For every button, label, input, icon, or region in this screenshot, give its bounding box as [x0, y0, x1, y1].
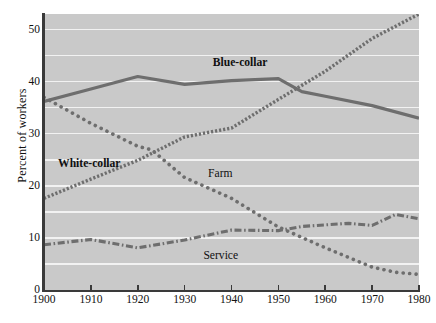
x-tick-label: 1900	[18, 292, 70, 306]
y-tick-label: 40	[2, 76, 40, 88]
x-tick-mark	[90, 285, 92, 292]
y-axis-line	[42, 13, 45, 292]
x-tick-mark	[231, 285, 233, 292]
x-tick-label: 1950	[252, 292, 304, 306]
plot-area: Blue-collarWhite-collarFarmService	[44, 14, 419, 290]
y-tick-label: 30	[2, 128, 40, 140]
y-axis-tick-labels: 01020304050	[0, 0, 40, 323]
x-tick-mark	[184, 285, 186, 292]
x-tick-label: 1930	[159, 292, 211, 306]
x-tick-label: 1920	[112, 292, 164, 306]
x-tick-label: 1910	[65, 292, 117, 306]
series-line-blue-collar	[44, 76, 419, 118]
x-tick-label: 1940	[206, 292, 258, 306]
x-tick-label: 1970	[346, 292, 398, 306]
y-tick-label: 10	[2, 232, 40, 244]
y-tick-label: 50	[2, 24, 40, 36]
y-tick-label: 20	[2, 180, 40, 192]
x-axis-tick-labels: 190019101920193019401950196019701980	[0, 292, 436, 312]
x-tick-mark	[137, 285, 139, 292]
series-line-service	[44, 214, 419, 247]
x-tick-label: 1960	[299, 292, 351, 306]
series-label-blue-collar: Blue-collar	[213, 56, 268, 69]
x-tick-mark	[418, 285, 420, 292]
x-tick-mark	[43, 285, 45, 292]
x-tick-label: 1980	[393, 292, 436, 306]
chart-figure: Percent of workers 01020304050 Blue-coll…	[0, 0, 436, 323]
series-label-service: Service	[203, 249, 238, 262]
x-tick-mark	[371, 285, 373, 292]
series-label-white-collar: White-collar	[58, 157, 120, 170]
x-tick-mark	[324, 285, 326, 292]
x-tick-mark	[278, 285, 280, 292]
series-label-farm: Farm	[208, 167, 232, 180]
